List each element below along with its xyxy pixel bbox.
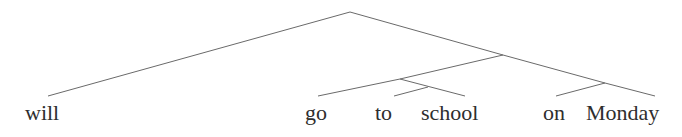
leaf-monday: Monday — [586, 102, 659, 124]
edge-n4-monday — [605, 83, 655, 96]
leaf-on: on — [543, 102, 565, 124]
edge-n3-to — [394, 87, 428, 96]
tree-diagram — [0, 0, 682, 137]
leaf-will: will — [25, 102, 59, 124]
edge-n2-go — [318, 79, 400, 96]
edge-root-n1 — [350, 12, 503, 55]
leaf-go: go — [305, 102, 327, 124]
leaf-to: to — [375, 102, 392, 124]
edge-root-will — [48, 12, 350, 96]
edge-n2-school — [400, 79, 465, 96]
edge-n1-n2 — [400, 55, 503, 79]
edge-n4-on — [556, 83, 605, 96]
edge-n1-n4 — [503, 55, 605, 83]
leaf-school: school — [421, 102, 478, 124]
